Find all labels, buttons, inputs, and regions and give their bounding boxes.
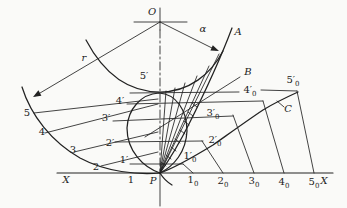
normal-from-5-0 xyxy=(297,91,314,173)
chord-lines xyxy=(34,99,158,166)
level-line-4 xyxy=(127,101,263,104)
label-point-2: 2 xyxy=(93,162,99,175)
label-point-3: 3 xyxy=(70,145,76,158)
label-B: B xyxy=(244,67,251,80)
label-P: P xyxy=(150,176,157,189)
radius-arrowhead-icon xyxy=(33,90,41,97)
geometric-construction-figure: O α A r B C P X X 5 4 3 2 1 5′ 4′ 3′ 2′ … xyxy=(0,0,347,208)
label-point-1-0: 10 xyxy=(188,175,199,188)
normal-from-4-0 xyxy=(263,101,284,173)
level-line-5-right xyxy=(261,90,297,91)
fan-line xyxy=(160,83,185,173)
base-circle-arc xyxy=(86,40,223,92)
label-point-3-prime-0: 3′0 xyxy=(206,108,219,121)
label-point-5-prime-0: 5′0 xyxy=(286,75,299,88)
label-point-4-prime: 4′ xyxy=(116,96,125,109)
normal-from-1-0 xyxy=(183,164,193,173)
alpha-arrowhead-icon xyxy=(210,45,219,51)
level-line-5-left xyxy=(130,92,239,93)
label-point-5-0: 50 xyxy=(309,177,320,190)
diagram-canvas xyxy=(0,0,347,208)
label-point-3-prime: 3′ xyxy=(102,113,111,126)
line-b xyxy=(145,77,240,137)
label-C: C xyxy=(284,104,292,117)
normal-lines xyxy=(183,91,314,173)
label-point-4-prime-0: 4′0 xyxy=(243,85,256,98)
label-alpha: α xyxy=(200,24,207,37)
label-r: r xyxy=(82,53,87,66)
label-point-1: 1 xyxy=(128,175,134,188)
label-point-4: 4 xyxy=(39,127,45,140)
label-X-left: X xyxy=(62,175,69,188)
label-A: A xyxy=(234,27,241,40)
label-O: O xyxy=(148,7,156,20)
label-point-3-0: 30 xyxy=(249,176,260,189)
label-point-1-prime-0: 1′0 xyxy=(183,151,196,164)
label-point-2-prime: 2′ xyxy=(106,138,115,151)
label-point-5: 5 xyxy=(24,108,30,121)
curve-c xyxy=(160,92,298,173)
chord-from-5 xyxy=(34,99,158,113)
fan-line xyxy=(160,88,175,173)
label-point-2-0: 20 xyxy=(218,176,229,189)
alpha-line xyxy=(160,22,216,50)
label-point-1-prime: 1′ xyxy=(120,155,129,168)
label-point-2-prime-0: 2′0 xyxy=(208,135,221,148)
label-X-right: X xyxy=(320,176,327,189)
c-label-leader-line xyxy=(277,101,284,107)
label-point-4-0: 40 xyxy=(279,177,290,190)
label-point-5-prime: 5′ xyxy=(140,71,149,84)
